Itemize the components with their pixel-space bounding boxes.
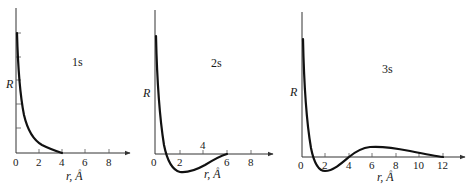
x-tick-label: 6 <box>369 159 375 171</box>
y-axis-label: R <box>5 77 14 91</box>
x-tick-label: 6 <box>82 156 88 168</box>
orbital-label: 1s <box>72 55 83 69</box>
x-tick-label: 12 <box>437 159 448 171</box>
panel-2s: 0 2 4 6 8 R r, Å 2s <box>142 10 273 181</box>
y-axis-label: R <box>289 85 298 99</box>
x-tick-label: 0 <box>151 156 157 168</box>
x-tick-label: 4 <box>59 156 65 168</box>
x-tick-label: 0 <box>298 159 304 171</box>
y-axis-label: R <box>142 86 151 100</box>
x-axis-ticks <box>39 149 109 153</box>
x-axis-label: r, Å <box>66 169 83 183</box>
x-tick-label: 2 <box>322 159 328 171</box>
panel-1s: 0 2 4 6 8 R r, Å 1s <box>5 8 130 183</box>
orbital-label: 2s <box>211 56 222 70</box>
x-tick-label: 4 <box>346 159 352 171</box>
x-tick-label: 10 <box>413 159 425 171</box>
panel-3s: 0 2 4 6 8 10 12 R r, Å 3s <box>289 12 465 184</box>
x-tick-label: 8 <box>248 156 254 168</box>
x-tick-label: 8 <box>106 156 112 168</box>
curve-1s <box>17 33 62 153</box>
orbital-label: 3s <box>382 62 393 76</box>
curve-3s <box>303 39 443 171</box>
x-tick-label: 2 <box>177 156 183 168</box>
x-axis-label: r, Å <box>204 167 221 181</box>
radial-function-figure: 0 2 4 6 8 R r, Å 1s 0 2 4 6 8 R r, Å 2s <box>0 0 468 190</box>
x-axis-ticks <box>180 150 251 154</box>
x-tick-label: 8 <box>393 159 399 171</box>
x-axis-label: r, Å <box>377 170 394 184</box>
x-tick-label: 6 <box>224 156 230 168</box>
x-tick-label: 0 <box>13 156 19 168</box>
x-tick-label-above-axis: 4 <box>200 139 206 151</box>
x-tick-label: 2 <box>36 156 42 168</box>
